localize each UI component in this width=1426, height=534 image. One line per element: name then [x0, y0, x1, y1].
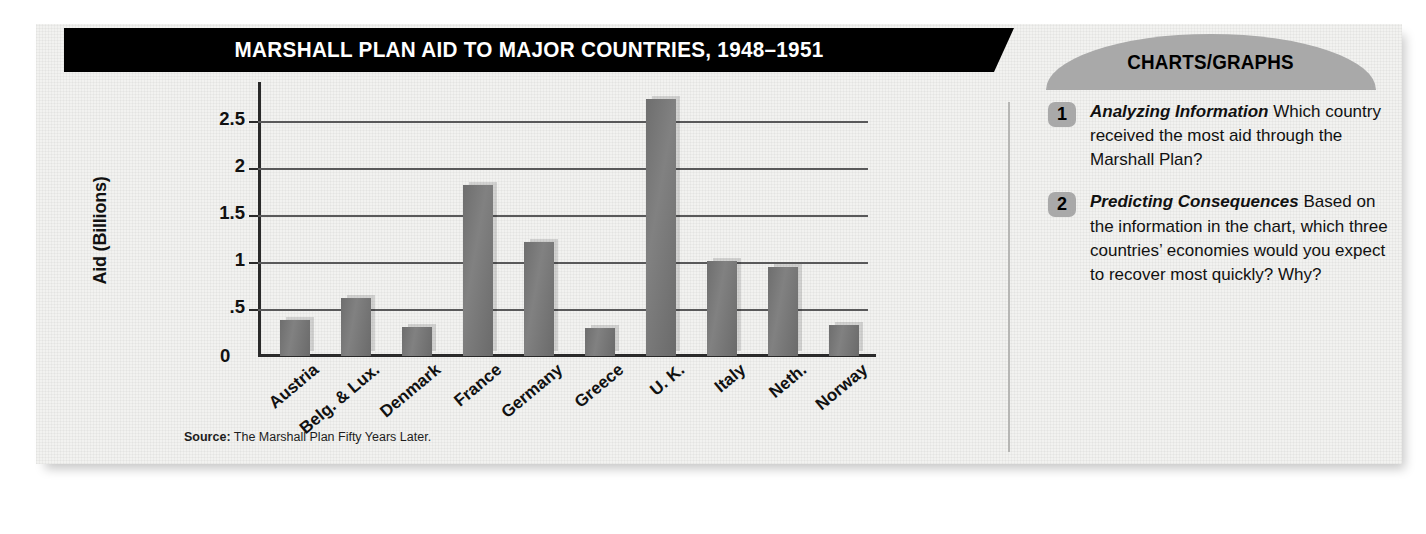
y-axis-tick: [249, 215, 258, 217]
y-axis-tick: [249, 168, 258, 170]
question-lead: Analyzing Information: [1090, 102, 1269, 121]
chart-card: MARSHALL PLAN AID TO MAJOR COUNTRIES, 19…: [36, 24, 1402, 464]
bar[interactable]: [280, 320, 310, 356]
bar-slot: [341, 98, 371, 356]
plot-area: 2.521.51.5 0: [258, 98, 868, 356]
y-axis-title: Aid (Billions): [90, 131, 111, 331]
section-header-arch: CHARTS/GRAPHS: [1046, 34, 1376, 90]
question-item: 2Predicting Consequences Based on the in…: [1048, 190, 1398, 287]
source-text: The Marshall Plan Fifty Years Later.: [231, 430, 432, 444]
title-bar-angle-decoration: [994, 28, 1014, 72]
bar-slot: [280, 98, 310, 356]
y-tick-label: .5: [230, 296, 245, 318]
questions-panel: 1Analyzing Information Which country rec…: [1048, 100, 1398, 305]
y-axis-tick: [249, 309, 258, 311]
bar-slot: [768, 98, 798, 356]
bar-chart: Aid (Billions) 2.521.51.5 0 AustriaBelg.…: [36, 70, 1004, 464]
question-text: Analyzing Information Which country rece…: [1090, 100, 1398, 172]
bars-group: [258, 98, 868, 356]
bar[interactable]: [768, 267, 798, 356]
page-root: MARSHALL PLAN AID TO MAJOR COUNTRIES, 19…: [0, 0, 1426, 534]
x-axis-labels-group: AustriaBelg. & Lux.DenmarkFranceGermanyG…: [258, 360, 898, 460]
question-item: 1Analyzing Information Which country rec…: [1048, 100, 1398, 172]
question-lead: Predicting Consequences: [1090, 192, 1299, 211]
y-tick-label-zero: 0: [220, 345, 230, 367]
page-title: MARSHALL PLAN AID TO MAJOR COUNTRIES, 19…: [235, 37, 824, 63]
question-text: Predicting Consequences Based on the inf…: [1090, 190, 1398, 287]
chart-source: Source: The Marshall Plan Fifty Years La…: [184, 430, 431, 444]
bar[interactable]: [646, 99, 676, 356]
y-tick-label: 1.5: [219, 202, 245, 224]
y-axis-tick: [249, 121, 258, 123]
bar-slot: [646, 98, 676, 356]
panel-divider: [1008, 102, 1010, 452]
chart-title-bar: MARSHALL PLAN AID TO MAJOR COUNTRIES, 19…: [64, 28, 994, 72]
question-number-badge: 1: [1048, 102, 1076, 127]
y-axis-tick: [249, 262, 258, 264]
question-number-badge: 2: [1048, 192, 1076, 217]
bar-slot: [707, 98, 737, 356]
y-tick-label: 1: [235, 249, 245, 271]
source-label: Source:: [184, 430, 231, 444]
y-tick-label: 2: [235, 155, 245, 177]
section-label: CHARTS/GRAPHS: [1128, 51, 1294, 74]
y-tick-label: 2.5: [219, 108, 245, 130]
bar-slot: [829, 98, 859, 356]
bar-slot: [524, 98, 554, 356]
